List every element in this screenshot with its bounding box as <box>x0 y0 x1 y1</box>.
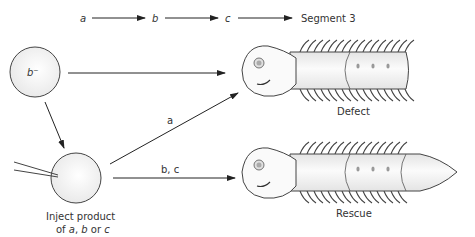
inject-caption-line1: Inject product <box>46 211 115 222</box>
arrow-mutant-to-injected <box>45 102 64 148</box>
diagonal-arrow-label: a <box>167 115 173 126</box>
defect-label: Defect <box>337 106 370 117</box>
pathway-header: a b c Segment 3 <box>80 13 356 24</box>
mutant-embryo: b⁻ <box>10 47 60 97</box>
lower-arrow-label: b, c <box>161 164 179 175</box>
gene-a-label: a <box>80 13 86 24</box>
rescue-larva <box>242 142 457 203</box>
gene-b-label: b <box>152 13 158 24</box>
segment-3-label: Segment 3 <box>301 13 356 24</box>
rescue-label: Rescue <box>336 208 372 219</box>
inject-caption-line2: of a, b or c <box>56 224 110 235</box>
arrow-injected-a-to-defect <box>110 93 238 164</box>
gene-c-label: c <box>225 13 231 24</box>
segmentation-rescue-diagram: a b c Segment 3 b⁻ Inject product of a, … <box>0 0 475 237</box>
injected-embryo <box>14 153 101 203</box>
defect-larva <box>242 40 414 101</box>
mutant-label: b⁻ <box>27 67 39 78</box>
